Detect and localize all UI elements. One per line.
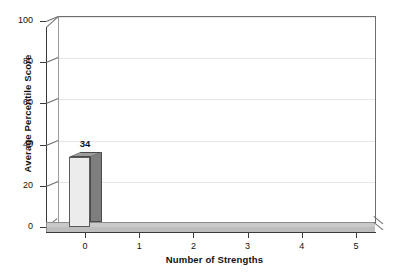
y-tick-depth-connector xyxy=(46,57,58,63)
gridline xyxy=(58,182,375,183)
x-tick-mark xyxy=(85,232,86,238)
y-tick-label: 0 xyxy=(0,222,33,231)
bar-front-face xyxy=(69,157,90,227)
x-tick-mark xyxy=(248,232,249,238)
x-tick-label: 5 xyxy=(344,241,368,251)
y-tick-depth-connector xyxy=(46,98,58,104)
y-tick-depth-connector xyxy=(46,181,58,187)
gridline xyxy=(58,58,375,59)
floor-left-edge xyxy=(46,222,47,232)
y-tick-label: 60 xyxy=(0,98,33,107)
x-tick-label: 1 xyxy=(127,241,151,251)
y-tick-depth-connector xyxy=(46,140,58,146)
y-tick-mark xyxy=(40,103,46,104)
y-tick-mark xyxy=(40,62,46,63)
gridline xyxy=(58,141,375,142)
x-tick-mark xyxy=(302,232,303,238)
y-axis-line xyxy=(46,27,47,227)
x-axis-title: Number of Strengths xyxy=(47,254,382,265)
x-tick-label: 0 xyxy=(73,241,97,251)
gridline xyxy=(58,17,375,18)
y-tick-label: 20 xyxy=(0,181,33,190)
y-tick-label: 100 xyxy=(0,16,33,25)
plot-back-wall xyxy=(58,16,376,223)
x-tick-mark xyxy=(193,232,194,238)
x-tick-label: 2 xyxy=(181,241,205,251)
bar-column[interactable] xyxy=(69,157,90,227)
y-axis-title: Average Percentile Score xyxy=(22,29,33,199)
x-tick-label: 4 xyxy=(290,241,314,251)
x-tick-label: 3 xyxy=(236,241,260,251)
chart-container: Average Percentile Score 020406080100 34… xyxy=(0,0,409,274)
gridline xyxy=(58,99,375,100)
x-tick-mark xyxy=(356,232,357,238)
plot-left-wall-edge xyxy=(58,16,59,222)
x-tick-mark xyxy=(139,232,140,238)
x-axis-line xyxy=(46,232,376,233)
y-tick-label: 80 xyxy=(0,57,33,66)
bar-right-face xyxy=(90,152,102,222)
y-tick-label: 40 xyxy=(0,140,33,149)
bar-value-label: 34 xyxy=(65,138,105,149)
